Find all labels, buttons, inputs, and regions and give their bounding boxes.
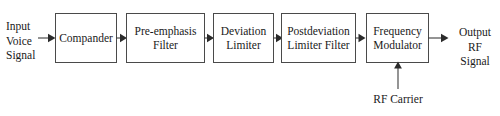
arrow-frequency-modulator-to-output xyxy=(428,31,453,45)
block-compander[interactable]: Compander xyxy=(55,13,117,63)
arrow-rf-carrier-to-frequency-modulator xyxy=(391,60,405,89)
block-deviation-limiter[interactable]: Deviation Limiter xyxy=(213,13,274,63)
rf-carrier-label: RF Carrier xyxy=(360,92,436,107)
block-pre-emphasis-filter-label: Pre-emphasis Filter xyxy=(132,24,200,53)
block-diagram-canvas: Input Voice Signal Compander Pre-emphasi… xyxy=(0,0,500,116)
block-compander-label: Compander xyxy=(56,31,116,45)
block-postdeviation-limiter-filter[interactable]: Postdeviation Limiter Filter xyxy=(281,13,356,63)
block-pre-emphasis-filter[interactable]: Pre-emphasis Filter xyxy=(126,13,205,63)
block-postdeviation-limiter-filter-label: Postdeviation Limiter Filter xyxy=(284,24,353,53)
output-rf-signal-label: Output RF Signal xyxy=(452,25,498,69)
block-deviation-limiter-label: Deviation Limiter xyxy=(218,24,269,53)
block-frequency-modulator-label: Frequency Modulator xyxy=(370,24,425,53)
block-frequency-modulator[interactable]: Frequency Modulator xyxy=(366,13,429,63)
